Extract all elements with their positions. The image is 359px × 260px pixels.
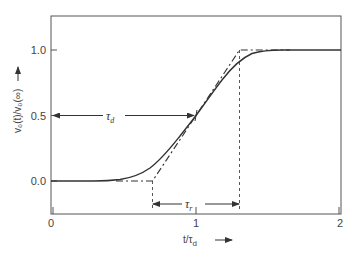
svg-text:v₀(t)/v₀(∞): v₀(t)/v₀(∞) (12, 89, 23, 133)
chart-canvas: 1.0 0.5 0.0 0 1 2 v₀(t)/v₀(∞) t/τd τd τr (0, 0, 359, 260)
x-axis-ticks (53, 207, 339, 214)
y-tick-label-0.5: 0.5 (31, 110, 46, 122)
x-tick-label-1: 1 (193, 217, 199, 229)
svg-text:t/τd: t/τd (183, 234, 197, 248)
svg-text:τd: τd (106, 109, 115, 125)
y-tick-label-1: 1.0 (31, 44, 46, 56)
tau-d-annotation: τd (53, 109, 197, 125)
x-axis-label: t/τd (183, 234, 232, 248)
y-axis-label: v₀(t)/v₀(∞) (12, 67, 23, 133)
x-tick-label-0: 0 (48, 217, 54, 229)
x-tick-label-2: 2 (337, 217, 343, 229)
svg-text:τr: τr (185, 197, 193, 213)
y-tick-label-0: 0.0 (31, 175, 46, 187)
